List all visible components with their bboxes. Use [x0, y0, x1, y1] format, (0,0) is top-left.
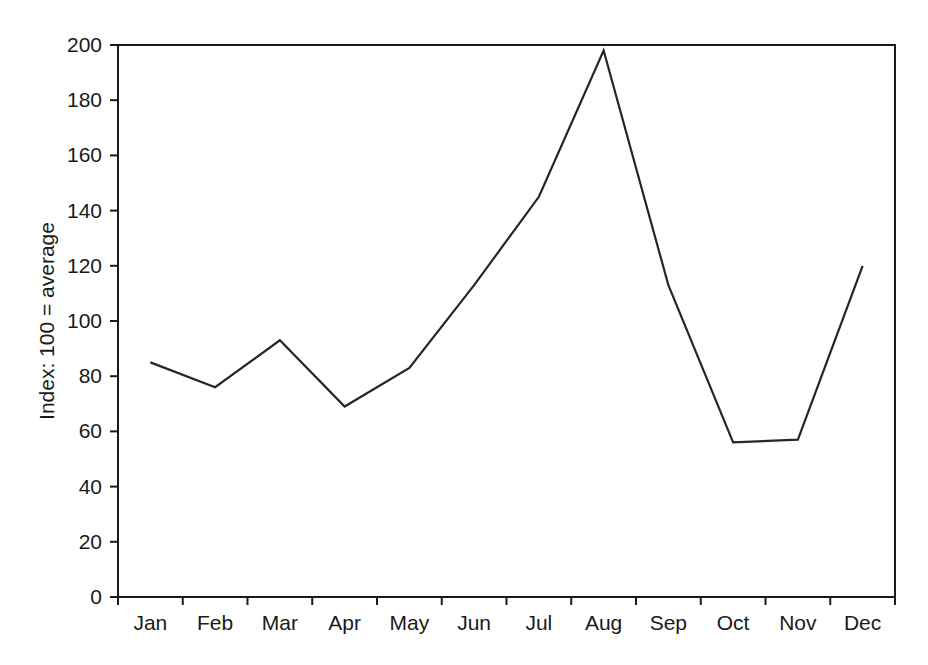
y-tick-label: 200: [67, 33, 102, 56]
y-tick-label: 140: [67, 199, 102, 222]
x-tick-label: Oct: [717, 611, 750, 634]
x-tick-label: May: [390, 611, 430, 634]
y-axis-title: Index: 100 = average: [35, 222, 58, 420]
x-tick-label: Jan: [133, 611, 167, 634]
data-series-line: [150, 51, 862, 443]
y-tick-label: 180: [67, 88, 102, 111]
y-tick-label: 120: [67, 254, 102, 277]
y-tick-label: 40: [79, 475, 102, 498]
x-tick-label: Dec: [844, 611, 881, 634]
chart-figure: 020406080100120140160180200 JanFebMarApr…: [0, 0, 928, 665]
x-tick-label: Mar: [262, 611, 298, 634]
y-tick-label: 20: [79, 530, 102, 553]
x-tick-label: Nov: [779, 611, 817, 634]
y-tick-label: 160: [67, 143, 102, 166]
x-tick-label: Jun: [457, 611, 491, 634]
plot-frame: [118, 45, 895, 597]
x-tick-label: Feb: [197, 611, 233, 634]
y-tick-label: 80: [79, 364, 102, 387]
x-tick-label: Apr: [328, 611, 361, 634]
x-tick-label: Aug: [585, 611, 622, 634]
y-tick-label: 100: [67, 309, 102, 332]
y-tick-label: 0: [90, 585, 102, 608]
x-tick-label: Sep: [650, 611, 687, 634]
y-axis-ticks: [110, 45, 118, 597]
x-axis-ticks: [118, 597, 895, 605]
x-axis-tick-labels: JanFebMarAprMayJunJulAugSepOctNovDec: [133, 611, 881, 634]
x-tick-label: Jul: [525, 611, 552, 634]
y-tick-label: 60: [79, 419, 102, 442]
y-axis-tick-labels: 020406080100120140160180200: [67, 33, 102, 608]
line-chart: 020406080100120140160180200 JanFebMarApr…: [0, 0, 928, 665]
